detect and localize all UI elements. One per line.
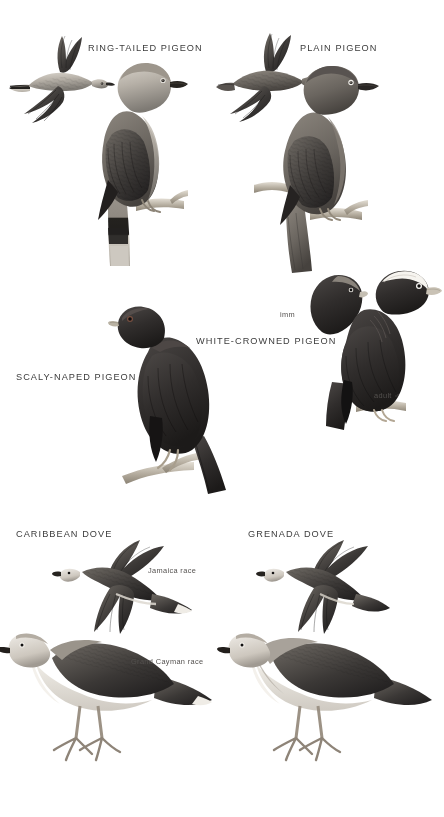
- species-label-ring-tailed-pigeon: RING-TAILED PIGEON: [88, 43, 203, 53]
- field-guide-plate: RING-TAILED PIGEON PLAIN PIGEON WHITE-CR…: [0, 0, 444, 817]
- species-label-grenada-dove: GRENADA DOVE: [248, 529, 334, 539]
- species-label-scaly-naped-pigeon: SCALY-NAPED PIGEON: [16, 372, 137, 382]
- species-label-plain-pigeon: PLAIN PIGEON: [300, 43, 377, 53]
- species-label-caribbean-dove: CARIBBEAN DOVE: [16, 529, 112, 539]
- figure-scaly-naped-pigeon-perched: [108, 290, 234, 495]
- annotation-jamaica-race: Jamaica race: [148, 566, 196, 575]
- species-label-white-crowned-pigeon: WHITE-CROWNED PIGEON: [196, 336, 336, 346]
- figure-grenada-dove-standing: [226, 606, 438, 772]
- annotation-grand-cayman-race: Grand Cayman race: [131, 657, 204, 666]
- annotation-immature: imm: [280, 310, 295, 319]
- figure-ring-tailed-pigeon-perched: [58, 52, 190, 274]
- figure-white-crowned-pigeon-adult-male: [326, 264, 442, 432]
- figure-caribbean-dove-standing: [6, 606, 218, 772]
- annotation-adult-male: adult ♂: [374, 391, 400, 400]
- figure-plain-pigeon-perched: [248, 55, 382, 277]
